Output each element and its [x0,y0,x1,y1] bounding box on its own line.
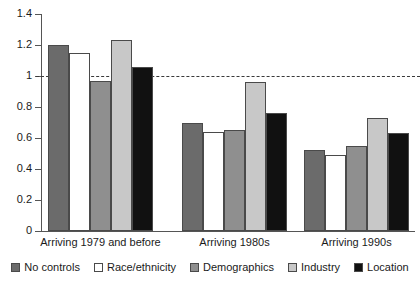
x-axis-line [42,231,415,232]
y-axis-tick [35,45,41,46]
bars-layer [42,14,415,231]
bar [224,130,245,231]
legend-item[interactable]: No controls [11,262,80,273]
legend-swatch-icon [190,263,199,272]
bar [182,123,203,232]
bar [111,40,132,231]
legend-swatch-icon [94,263,103,272]
bar [266,113,287,231]
bar [367,118,388,231]
legend-label: Race/ethnicity [107,262,176,273]
legend-swatch-icon [354,263,363,272]
legend-item[interactable]: Location [354,262,409,273]
bar [90,81,111,231]
legend-swatch-icon [288,263,297,272]
bar [346,146,367,231]
bar [203,132,224,231]
y-axis-tick-label: 0.2 [0,194,32,205]
bar [48,45,69,231]
legend-label: Industry [301,262,340,273]
y-axis-tick [35,169,41,170]
bar [388,133,409,231]
y-axis-tick [35,107,41,108]
x-axis-group-label: Arriving 1979 and before [40,236,160,248]
y-axis-tick-label: 0.4 [0,163,32,174]
x-axis-group-label: Arriving 1980s [199,236,269,248]
legend-swatch-icon [11,263,20,272]
legend-item[interactable]: Industry [288,262,340,273]
legend-label: Location [367,262,409,273]
y-axis-tick [35,138,41,139]
y-axis-tick-label: 1.2 [0,39,32,50]
y-axis-tick-label: 0 [0,225,32,236]
y-axis-tick-label: 0.6 [0,132,32,143]
chart-legend: No controlsRace/ethnicityDemographicsInd… [0,262,420,273]
y-axis-tick [35,200,41,201]
y-axis-tick [35,14,41,15]
bar [69,53,90,231]
bar-chart: 00.20.40.60.811.21.4 Arriving 1979 and b… [0,0,420,289]
bar [304,150,325,231]
legend-item[interactable]: Demographics [190,262,274,273]
legend-label: No controls [24,262,80,273]
bar [245,82,266,231]
legend-item[interactable]: Race/ethnicity [94,262,176,273]
y-axis-tick [35,231,41,232]
bar [132,67,153,231]
bar [325,155,346,231]
legend-label: Demographics [203,262,274,273]
y-axis-tick-label: 1.4 [0,8,32,19]
x-axis-group-label: Arriving 1990s [321,236,391,248]
y-axis-tick-label: 0.8 [0,101,32,112]
y-axis-tick-label: 1 [0,70,32,81]
